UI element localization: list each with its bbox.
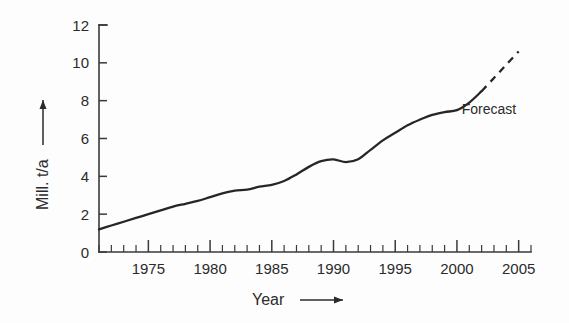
data-line-forecast <box>482 51 519 91</box>
y-tick-label: 2 <box>81 206 89 223</box>
forecast-annotation: Forecast <box>462 101 517 117</box>
line-chart: 024681012 1975198019851990199520002005 F… <box>0 0 569 323</box>
x-axis-title: Year <box>252 291 285 308</box>
y-tick-label: 8 <box>81 92 89 109</box>
y-tick-label: 10 <box>72 54 89 71</box>
y-tick-label: 6 <box>81 130 89 147</box>
x-axis-arrow-icon <box>300 297 343 304</box>
x-tick-label: 1985 <box>255 260 288 277</box>
y-tick-label: 12 <box>72 17 89 34</box>
x-tick-label: 1990 <box>317 260 350 277</box>
data-line-actual <box>99 91 482 229</box>
x-axis-minor-ticks <box>99 245 531 252</box>
x-axis-tick-labels: 1975198019851990199520002005 <box>132 260 536 277</box>
x-tick-label: 1975 <box>132 260 165 277</box>
x-tick-label: 1995 <box>379 260 412 277</box>
chart-figure: 024681012 1975198019851990199520002005 F… <box>0 0 569 323</box>
y-axis-arrow-icon <box>40 100 47 145</box>
y-axis-ticks <box>99 25 107 252</box>
y-tick-label: 4 <box>81 168 89 185</box>
x-tick-label: 1980 <box>193 260 226 277</box>
y-axis-tick-labels: 024681012 <box>72 17 89 261</box>
x-axis-major-ticks <box>148 240 518 252</box>
x-tick-label: 2005 <box>502 260 535 277</box>
y-axis-title: Mill. t/a <box>34 159 51 210</box>
y-tick-label: 0 <box>81 244 89 261</box>
x-tick-label: 2000 <box>440 260 473 277</box>
